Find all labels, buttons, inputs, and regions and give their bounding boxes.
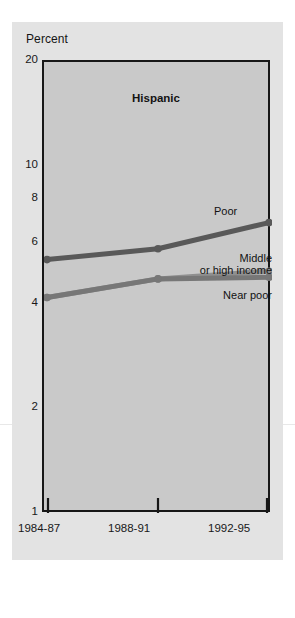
data-point bbox=[154, 275, 162, 283]
y-tick-label: 10 bbox=[12, 158, 38, 170]
y-axis-title: Percent bbox=[26, 32, 68, 46]
x-tick-label: 1988-91 bbox=[108, 522, 150, 534]
y-tick-label: 6 bbox=[12, 235, 38, 247]
plot-area bbox=[42, 60, 270, 512]
y-tick-label: 20 bbox=[12, 53, 38, 65]
data-point bbox=[154, 245, 162, 253]
annotation-middle-line2: or high income bbox=[168, 264, 272, 276]
annotation-near-poor: Near poor bbox=[168, 289, 272, 301]
annotation-poor: Poor bbox=[214, 205, 237, 217]
y-tick-label: 2 bbox=[12, 400, 38, 412]
y-tick-label: 4 bbox=[12, 296, 38, 308]
y-tick-label: 1 bbox=[12, 505, 38, 517]
annotation-middle-line1: Middle bbox=[240, 252, 272, 264]
plot-svg bbox=[44, 62, 272, 514]
plot-title: Hispanic bbox=[42, 92, 270, 104]
x-tick-label: 1992-95 bbox=[208, 522, 250, 534]
annotation-middle-or-high-income: Middle or high income bbox=[168, 252, 272, 276]
x-tick-label: 1984-87 bbox=[18, 522, 60, 534]
x-tick-marks bbox=[48, 498, 267, 513]
chart-figure: Percent Hispanic 201086421 1984-871988-9… bbox=[0, 0, 295, 618]
y-tick-label: 8 bbox=[12, 191, 38, 203]
